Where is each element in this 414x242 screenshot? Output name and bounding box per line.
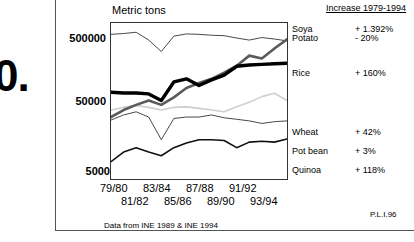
x-axis-tick-79-80: 79/80 xyxy=(100,182,128,194)
legend-header: Increase 1979-1994 xyxy=(326,3,406,13)
series-line-quinoa xyxy=(111,139,287,162)
legend-change-pot-bean: + 3% xyxy=(355,146,376,156)
legend-change-rice: + 160% xyxy=(355,68,386,78)
y-axis-tick-5000: 5000 xyxy=(40,165,110,177)
x-axis-tick-89-90: 89/90 xyxy=(207,195,235,207)
chart-series-canvas xyxy=(111,23,287,179)
legend-label-quinoa: Quinoa xyxy=(292,165,321,175)
chart-plot-area xyxy=(110,22,288,180)
y-axis-tick-50000: 50000 xyxy=(36,95,106,107)
source-footnote: Data from INE 1989 & INE 1994 xyxy=(104,221,218,230)
x-axis-tick-87-88: 87/88 xyxy=(186,182,214,194)
series-line-wheat xyxy=(111,93,287,112)
series-line-soya xyxy=(111,39,287,117)
legend-label-rice: Rice xyxy=(292,68,310,78)
legend-label-wheat: Wheat xyxy=(292,127,318,137)
frame-bottom-rule xyxy=(55,230,414,231)
legend-change-potato: - 20% xyxy=(355,33,379,43)
series-line-pot-bean xyxy=(111,112,287,140)
legend-change-quinoa: + 118% xyxy=(355,165,385,175)
slide-canvas: 0. Metric tons 500000 50000 5000 79/80 8… xyxy=(0,0,414,242)
x-axis-tick-85-86: 85/86 xyxy=(164,195,192,207)
x-axis-tick-81-82: 81/82 xyxy=(121,195,149,207)
x-axis-tick-83-84: 83/84 xyxy=(143,182,171,194)
x-axis-tick-93-94: 93/94 xyxy=(250,195,278,207)
credit-label: P.L.I.96 xyxy=(370,210,397,219)
slide-number: 0. xyxy=(0,54,29,98)
y-axis-tick-500000: 500000 xyxy=(36,32,106,44)
chart-title: Metric tons xyxy=(112,4,166,16)
legend-label-potato: Potato xyxy=(292,33,318,43)
series-line-potato xyxy=(111,32,287,51)
x-axis-tick-91-92: 91/92 xyxy=(229,182,257,194)
legend-change-wheat: + 42% xyxy=(355,127,381,137)
legend-label-pot-bean: Pot bean xyxy=(292,146,328,156)
